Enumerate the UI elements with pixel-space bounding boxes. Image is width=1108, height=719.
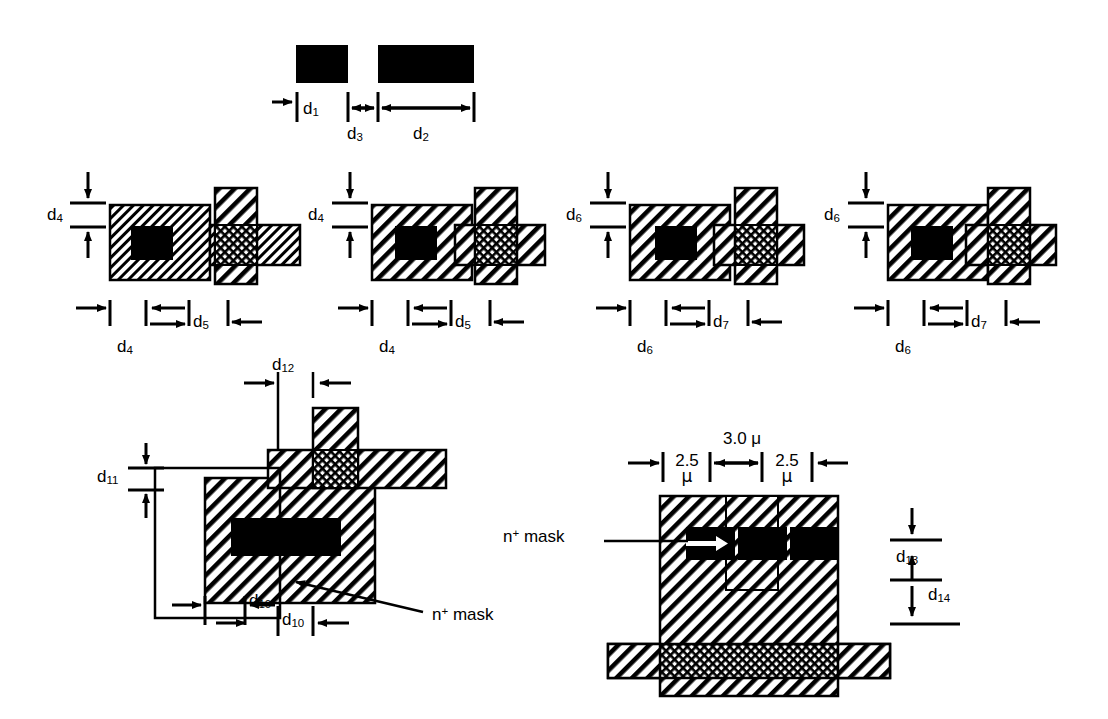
panel-d — [848, 172, 1056, 326]
contact-rect-large — [378, 45, 474, 83]
dim-label-d7-c: d7 — [713, 313, 729, 332]
nplus-mask-callout-left: n+ mask — [432, 606, 494, 623]
dim-label-d4-vertical-a: d4 — [47, 206, 63, 225]
panel-b — [332, 172, 545, 326]
contact-square-small — [296, 45, 348, 83]
figure-canvas: d1 d3 d2 d4 d4 d5 d4 d4 d5 d6 d6 d7 d6 d… — [0, 0, 1108, 719]
dim-label-d4-bottom-b: d4 — [379, 338, 395, 357]
dim-label-d5-a: d5 — [193, 313, 209, 332]
dim-label-total-width: 3.0 μ — [723, 430, 761, 447]
dim-label-d5-b: d5 — [455, 313, 471, 332]
panel-nplus-overlap — [128, 372, 446, 636]
dim-label-d11: d11 — [97, 468, 118, 487]
dim-label-d2: d2 — [413, 125, 429, 144]
layout-figure-svg — [0, 0, 1108, 719]
dim-label-d6-bottom-d: d6 — [895, 338, 911, 357]
dim-label-d3: d3 — [347, 125, 363, 144]
dim-label-d1: d1 — [303, 100, 319, 119]
dim-label-d10-lower: d10 — [282, 611, 304, 630]
dim-label-d12: d12 — [272, 356, 294, 375]
panel-a — [70, 172, 300, 326]
dim-label-d4-vertical-b: d4 — [308, 206, 324, 225]
panel-nplus-cross-section — [604, 452, 960, 696]
dim-label-right-2p5: 2.5μ — [766, 452, 808, 485]
dim-label-d6-vertical-d: d6 — [824, 206, 840, 225]
dim-label-d6-vertical-c: d6 — [566, 206, 582, 225]
dim-label-d6-bottom-c: d6 — [637, 338, 653, 357]
dim-label-d13: d13 — [896, 548, 918, 567]
dim-label-d10-upper: d10 — [249, 592, 271, 611]
panel-c — [590, 172, 804, 326]
dim-label-d4-bottom-a: d4 — [117, 338, 133, 357]
dim-label-left-2p5: 2.5μ — [666, 452, 708, 485]
dim-label-d14: d14 — [928, 586, 950, 605]
dim-label-d7-d: d7 — [971, 313, 987, 332]
nplus-mask-callout-right: n+ mask — [503, 528, 565, 545]
